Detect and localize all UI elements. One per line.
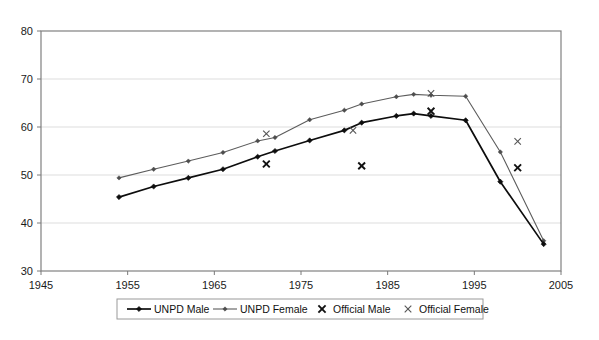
y-axis-ticks: 304050607080 [21, 25, 41, 277]
x-tick-label: 1975 [289, 279, 313, 291]
y-tick-label: 80 [21, 25, 33, 37]
y-tick-label: 50 [21, 169, 33, 181]
chart-canvas: 304050607080 194519551965197519851995200… [0, 0, 599, 340]
legend-label: Official Male [333, 303, 391, 315]
y-tick-label: 60 [21, 121, 33, 133]
y-tick-label: 40 [21, 217, 33, 229]
y-tick-label: 30 [21, 265, 33, 277]
chart-legend: UNPD MaleUNPD FemaleOfficial MaleOfficia… [117, 299, 489, 319]
legend-label: UNPD Male [154, 303, 210, 315]
y-tick-label: 70 [21, 73, 33, 85]
x-tick-label: 1955 [115, 279, 139, 291]
legend-label: Official Female [419, 303, 489, 315]
x-tick-label: 1965 [202, 279, 226, 291]
x-axis-ticks: 1945195519651975198519952005 [29, 271, 573, 291]
line-chart: 304050607080 194519551965197519851995200… [0, 0, 599, 340]
legend-label: UNPD Female [240, 303, 308, 315]
x-tick-label: 2005 [549, 279, 573, 291]
x-tick-label: 1985 [375, 279, 399, 291]
x-tick-label: 1945 [29, 279, 53, 291]
x-tick-label: 1995 [462, 279, 486, 291]
